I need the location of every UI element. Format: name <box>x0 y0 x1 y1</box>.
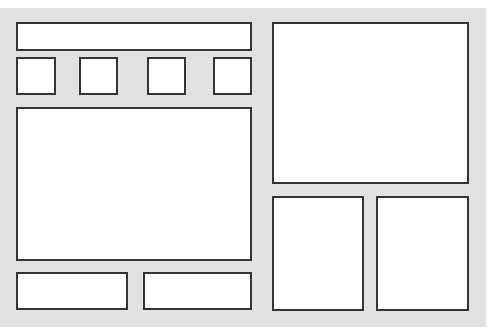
footer-left <box>16 272 128 310</box>
header-bar <box>16 22 252 51</box>
tile-1 <box>16 57 56 95</box>
tile-2 <box>79 57 118 95</box>
tile-3 <box>147 57 186 95</box>
main-panel <box>16 107 252 261</box>
right-bottom-right <box>376 196 469 311</box>
tile-4 <box>213 57 252 95</box>
right-top-panel <box>272 22 469 184</box>
right-bottom-left <box>272 196 364 311</box>
footer-right <box>143 272 252 310</box>
